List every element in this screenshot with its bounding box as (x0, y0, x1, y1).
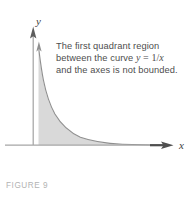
annotation-variable-x: x (159, 52, 164, 63)
annotation-line-3: and the axes is not bounded. (56, 64, 188, 76)
annotation-equation: = 1/ (141, 52, 160, 63)
figure-container: y x The first quadrant region between th… (0, 0, 192, 201)
annotation-line-2-prefix: between the curve (56, 53, 136, 63)
annotation-line-2: between the curve y = 1/x (56, 52, 188, 64)
plot-area: y x (0, 0, 192, 201)
y-axis-label: y (35, 15, 41, 27)
annotation-line-1: The first quadrant region (56, 40, 188, 52)
annotation-text: The first quadrant region between the cu… (56, 40, 188, 76)
figure-caption: FIGURE 9 (6, 181, 48, 190)
x-axis-label: x (178, 139, 184, 151)
